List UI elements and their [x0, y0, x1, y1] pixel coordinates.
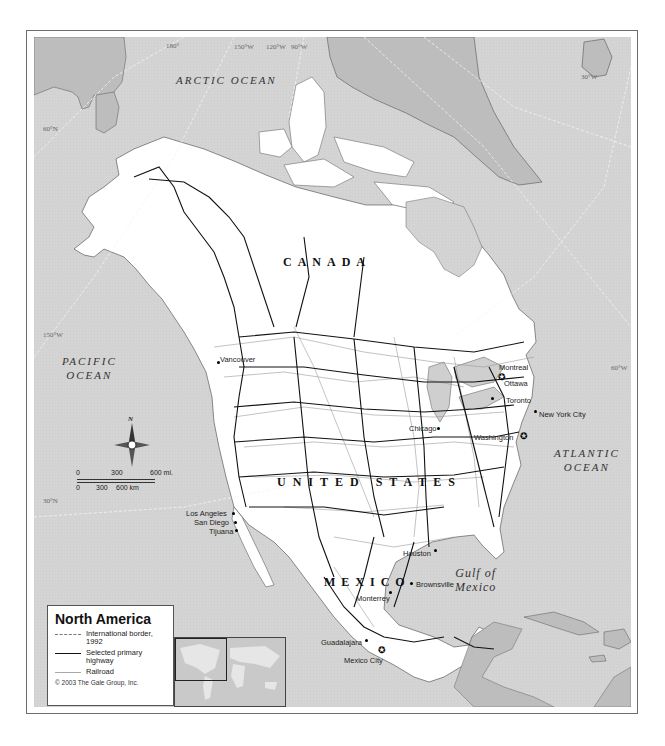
city-label-mexico-city: Mexico City	[344, 656, 383, 665]
graticule-label-120w: 120°W	[266, 43, 286, 51]
city-marker-brownsville	[410, 582, 413, 585]
city-label-new-york: New York City	[539, 410, 586, 419]
city-marker-toronto	[491, 397, 494, 400]
graticule-label-90w: 90°W	[291, 43, 307, 51]
scale-km-0: 0	[76, 484, 80, 491]
legend-item-border: International border, 1992	[55, 630, 166, 646]
scale-km-300: 300	[96, 484, 108, 491]
legend-item-railroad: Railroad	[55, 668, 166, 676]
legend-title: North America	[55, 611, 166, 627]
scale-bar: 0 300 600 mi. 0 300 600 km	[76, 469, 196, 501]
city-marker-los-angeles	[232, 512, 235, 515]
scale-mi-600: 600 mi.	[150, 469, 173, 476]
inset-world-map	[174, 637, 286, 707]
city-label-brownsville: Brownsville	[416, 580, 454, 589]
city-label-houston: Houston	[403, 549, 431, 558]
canada-label: CANADA	[283, 255, 371, 270]
scale-mi-300: 300	[111, 469, 123, 476]
city-label-ottawa: Ottawa	[504, 379, 528, 388]
scale-bar-line	[77, 479, 155, 483]
graticule-label-30n: 30°N	[43, 497, 58, 505]
city-label-tijuana: Tijuana	[209, 527, 233, 536]
map-legend: North America International border, 1992…	[47, 605, 174, 706]
city-label-chicago: Chicago	[409, 424, 437, 433]
city-marker-guadalajara	[365, 639, 368, 642]
scale-mi-0: 0	[76, 469, 80, 476]
inset-highlight-box	[175, 638, 227, 681]
scale-km-600: 600 km	[116, 484, 139, 491]
graticule-label-60n: 60°N	[43, 125, 58, 133]
city-label-vancouver: Vancouver	[220, 355, 255, 364]
graticule-label-180: 180°	[166, 42, 179, 50]
city-label-toronto: Toronto	[506, 396, 531, 405]
graticule-label-60w: 60°W	[611, 364, 627, 372]
copyright-text: © 2003 The Gale Group, Inc.	[55, 679, 166, 686]
city-label-los-angeles: Los Angeles	[186, 509, 227, 518]
capital-star-icon-washington: ✪	[520, 432, 528, 441]
united-states-label: UNITED STATES	[277, 475, 462, 490]
city-label-guadalajara: Guadalajara	[321, 638, 362, 647]
city-marker-houston	[434, 549, 437, 552]
graticule-label-30w: 30°W	[581, 73, 597, 81]
city-marker-san-diego	[234, 521, 237, 524]
city-label-san-diego: San Diego	[194, 518, 229, 527]
city-marker-tijuana	[235, 529, 238, 532]
atlantic-ocean-label: ATLANTIC OCEAN	[554, 446, 620, 474]
city-label-washington: Washington	[474, 433, 513, 442]
gulf-of-mexico-label: Gulf of Mexico	[455, 566, 496, 594]
graticule-label-150w-left: 150°W	[43, 331, 63, 339]
graticule-label-150w: 150°W	[234, 43, 254, 51]
railroad-line-icon	[55, 668, 81, 676]
capital-star-icon-mexico-city: ✪	[378, 646, 386, 655]
arctic-ocean-label: ARCTIC OCEAN	[176, 73, 277, 87]
city-marker-new-york	[534, 410, 537, 413]
map-frame: 180° 150°W 120°W 90°W 30°W 60°N 150°W 60…	[26, 30, 638, 714]
compass-north-label: N	[128, 415, 133, 423]
highway-line-icon	[55, 649, 81, 657]
legend-item-highway: Selected primary highway	[55, 649, 166, 665]
city-marker-chicago	[437, 427, 440, 430]
compass-rose-icon: N	[114, 415, 150, 465]
city-label-montreal: Montreal	[499, 363, 528, 372]
pacific-ocean-label: PACIFIC OCEAN	[62, 354, 117, 382]
city-label-monterrey: Monterrey	[356, 594, 390, 603]
north-america-map: 180° 150°W 120°W 90°W 30°W 60°N 150°W 60…	[34, 37, 631, 707]
border-line-icon	[55, 630, 81, 638]
mexico-label: MEXICO	[324, 575, 411, 590]
